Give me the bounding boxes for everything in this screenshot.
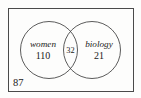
left-set-label: women — [30, 39, 56, 49]
right-set-count: 21 — [94, 50, 104, 61]
left-set-count: 110 — [36, 50, 51, 61]
venn-diagram-canvas: women 110 32 biology 21 87 — [0, 0, 141, 98]
universe-count: 87 — [13, 77, 24, 88]
intersection-count: 32 — [66, 46, 74, 55]
venn-diagram-figure: women 110 32 biology 21 87 — [0, 0, 141, 98]
right-set-label: biology — [85, 39, 113, 49]
